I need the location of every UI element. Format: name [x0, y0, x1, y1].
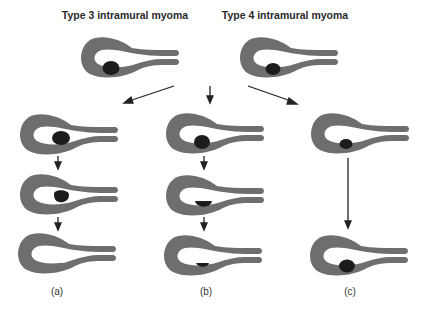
sequence-arrows [55, 156, 351, 230]
myoma [52, 131, 70, 145]
cavity-notch [334, 134, 354, 139]
cavity-notch [194, 259, 211, 264]
uterus-c-1 [311, 113, 409, 153]
uterus-type3-top [81, 37, 179, 77]
uterus-type4-top [240, 37, 338, 77]
cavity-notch [193, 196, 213, 201]
myoma [340, 139, 353, 149]
uterus-b-3 [164, 235, 262, 275]
myoma [266, 63, 281, 75]
uterus-a-2 [20, 174, 118, 214]
uterus-b-2 [166, 175, 264, 215]
label-a: (a) [51, 286, 63, 297]
branch-arrows [124, 86, 297, 104]
myoma [54, 190, 69, 202]
uterus-a-1 [20, 114, 118, 154]
label-c: (c) [344, 286, 356, 297]
cavity-notch [339, 257, 353, 259]
uterus-b-1 [166, 113, 264, 153]
diagram-canvas [0, 0, 434, 321]
uterus-a-3 [18, 233, 116, 273]
myoma [339, 260, 355, 273]
myoma [194, 135, 210, 149]
label-b: (b) [200, 286, 212, 297]
myoma [103, 61, 120, 75]
uterus-c-2 [310, 235, 408, 275]
